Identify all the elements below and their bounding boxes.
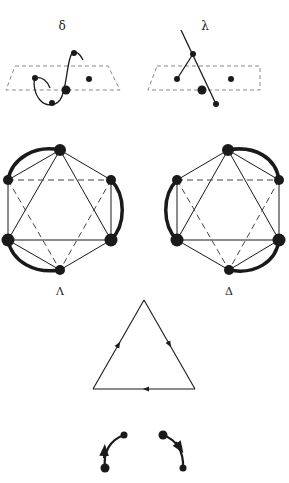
dot [71,50,77,56]
lambda-hexagon [2,144,123,275]
dot [32,75,38,81]
dot [49,100,55,106]
delta-label: δ [58,20,65,32]
straight-strand [181,30,216,104]
dot-large [62,86,71,95]
directed-triangle [93,300,195,389]
curved-arrows [101,431,187,473]
lambda-label: λ [201,20,209,32]
delta-hexagon [166,144,286,275]
dot [190,51,196,57]
dot [86,76,92,82]
lambda-plane-panel [148,30,260,107]
delta-plane-panel [6,50,120,106]
curved-strand [34,52,83,105]
dot [228,76,234,82]
dashed-plane [6,66,120,90]
lambda-hexagon-label: Λ [56,286,64,297]
dot-large [198,86,207,95]
dot [174,76,180,82]
delta-hexagon-label: Δ [225,286,233,297]
dot [213,101,219,107]
diagram-canvas [0,0,289,483]
